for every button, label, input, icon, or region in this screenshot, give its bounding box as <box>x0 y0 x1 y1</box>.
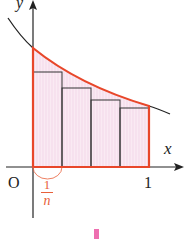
curve-left <box>8 18 33 48</box>
x-axis-label: x <box>164 139 172 159</box>
fraction-denominator: n <box>40 194 54 208</box>
origin-label: O <box>8 174 20 192</box>
width-fraction: 1 n <box>40 178 54 208</box>
riemann-sum-diagram <box>0 0 185 241</box>
y-axis-label: y <box>16 0 23 12</box>
curve-right <box>149 106 170 114</box>
page-marker-icon <box>94 229 99 239</box>
fraction-numerator: 1 <box>40 178 54 191</box>
x-tick-one: 1 <box>144 174 152 192</box>
